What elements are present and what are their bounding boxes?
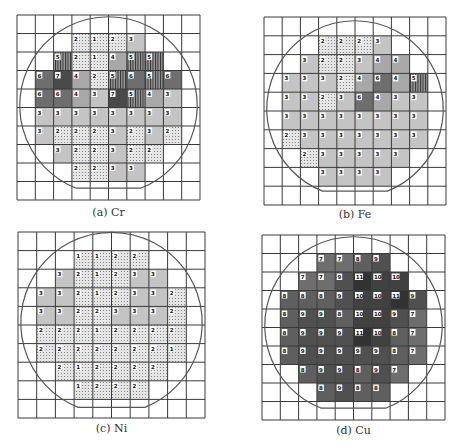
die-value: 3 (129, 110, 133, 116)
die-value: 8 (337, 311, 341, 317)
die-value: 9 (337, 348, 341, 354)
die-value: 4 (394, 75, 398, 81)
die-value: 9 (319, 348, 323, 354)
die-value: 2 (114, 271, 118, 277)
die-value: 2 (92, 165, 96, 171)
die-value: 3 (56, 110, 60, 116)
die-value: 8 (356, 385, 360, 391)
die-value: 6 (166, 73, 170, 79)
die-value: 2 (114, 290, 118, 296)
die-value: 7 (111, 91, 115, 97)
die-value: 7 (301, 274, 305, 280)
die-value: 3 (339, 169, 343, 175)
die-value: 3 (412, 113, 416, 119)
die-value: 2 (114, 383, 118, 389)
die-value: 2 (114, 364, 118, 370)
die-value: 2 (303, 151, 307, 157)
die-value: 3 (147, 110, 151, 116)
die-value: 6 (375, 75, 379, 81)
die-value: 2 (95, 364, 99, 370)
die-value: 3 (166, 110, 170, 116)
die-value: 3 (284, 94, 288, 100)
die-value: 9 (337, 385, 341, 391)
die-value: 3 (412, 132, 416, 138)
die-value: 9 (374, 348, 378, 354)
die-value: 3 (321, 169, 325, 175)
die-value: 1 (76, 383, 80, 389)
die-value: 8 (283, 330, 287, 336)
die-value: 9 (337, 330, 341, 336)
die-value: 5 (56, 54, 60, 60)
die-value: 2 (357, 38, 361, 44)
die-value: 3 (303, 113, 307, 119)
die-value: 9 (319, 311, 323, 317)
die-value: 3 (92, 110, 96, 116)
die-value: 9 (319, 367, 323, 373)
die-value: 2 (76, 308, 80, 314)
die-value: 3 (151, 290, 155, 296)
die-value: 3 (39, 290, 43, 296)
die-value: 3 (132, 290, 136, 296)
die-value: 3 (114, 308, 118, 314)
die-value: 3 (303, 57, 307, 63)
die-value: 11 (392, 293, 400, 299)
die-value: 3 (321, 151, 325, 157)
die-value: 2 (129, 128, 133, 134)
die-value: 3 (132, 308, 136, 314)
die-value: 10 (374, 330, 382, 336)
die-value: 10 (356, 293, 364, 299)
die-value: 2 (147, 147, 151, 153)
die-value: 1 (92, 54, 96, 60)
die-value: 2 (74, 165, 78, 171)
die-value: 4 (357, 75, 361, 81)
die-value: 3 (303, 132, 307, 138)
die-value: 2 (166, 128, 170, 134)
panel-caption: (b) Fe (339, 208, 372, 221)
die-value: 7 (319, 256, 323, 262)
die-value: 3 (166, 91, 170, 97)
die-value: 2 (58, 346, 62, 352)
die-value: 8 (374, 385, 378, 391)
die-value: 3 (303, 75, 307, 81)
die-value: 1 (95, 271, 99, 277)
die-value: 3 (111, 165, 115, 171)
die-value: 2 (170, 327, 174, 333)
die-value: 7 (392, 367, 396, 373)
die-value: 6 (38, 91, 42, 97)
die-value: 2 (76, 346, 80, 352)
die-value: 4 (394, 57, 398, 63)
die-value: 2 (74, 128, 78, 134)
die-value: 1 (76, 364, 80, 370)
die-value: 3 (58, 308, 62, 314)
die-value: 2 (132, 253, 136, 259)
die-value: 7 (337, 256, 341, 262)
die-value: 9 (337, 367, 341, 373)
die-value: 3 (321, 132, 325, 138)
die-value: 6 (38, 73, 42, 79)
die-value: 2 (339, 38, 343, 44)
die-value: 9 (411, 293, 415, 299)
figure: 2123521455674256566643754333333333322232… (0, 0, 459, 448)
die-value: 9 (356, 348, 360, 354)
die-value: 5 (147, 54, 151, 60)
die-value: 2 (339, 57, 343, 63)
die-value: 2 (339, 75, 343, 81)
die-value: 9 (319, 330, 323, 336)
die-value: 3 (38, 128, 42, 134)
die-value: 3 (56, 147, 60, 153)
die-value: 2 (92, 128, 96, 134)
die-value: 2 (74, 54, 78, 60)
die-value: 3 (375, 113, 379, 119)
die-value: 1 (95, 290, 99, 296)
die-value: 4 (375, 94, 379, 100)
die-value: 2 (151, 346, 155, 352)
die-value: 3 (129, 36, 133, 42)
die-value: 3 (284, 75, 288, 81)
die-value: 3 (339, 94, 343, 100)
die-value: 3 (111, 147, 115, 153)
die-value: 2 (39, 346, 43, 352)
die-value: 2 (76, 327, 80, 333)
die-value: 7 (411, 330, 415, 336)
die-value: 6 (357, 94, 361, 100)
die-value: 10 (374, 311, 382, 317)
